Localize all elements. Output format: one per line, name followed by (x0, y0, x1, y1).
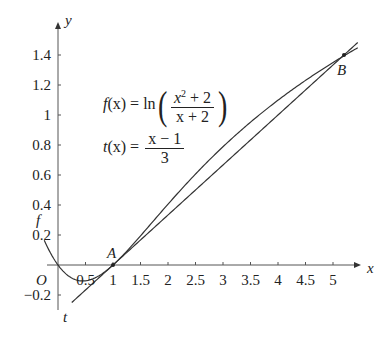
y-tick-label: 0.2 (32, 227, 51, 243)
f-arg: (x) (107, 95, 126, 112)
point-B (342, 53, 346, 57)
right-paren: ) (218, 86, 227, 126)
y-axis-label: y (63, 12, 72, 28)
x-tick-label: 0.5 (76, 272, 95, 288)
point-A-label: A (106, 245, 117, 261)
x-tick-label: 4 (274, 272, 282, 288)
left-paren: ( (158, 86, 167, 126)
y-axis-arrow-icon (55, 22, 61, 29)
x-axis-label: x (366, 260, 374, 276)
y-tick-label: 0.6 (32, 167, 51, 183)
y-tick-label: 0.4 (32, 197, 51, 213)
f-fraction: x2 + 2x + 2 (171, 85, 214, 126)
x-tick-label: 2 (164, 272, 172, 288)
f-num-rest: + 2 (186, 89, 211, 106)
f-num-base: x (174, 89, 181, 106)
x-tick-label: 2.5 (186, 272, 205, 288)
origin-label: O (36, 272, 47, 288)
t-eq: = (126, 138, 143, 155)
point-B-label: B (337, 62, 346, 78)
t-curve-label: t (63, 309, 68, 325)
f-eq: = ln (126, 95, 155, 112)
t-arg: (x) (107, 138, 126, 155)
x-tick-label: 4.5 (296, 272, 315, 288)
curves (44, 43, 358, 303)
y-tick-label: 1 (44, 107, 52, 123)
x-tick-label: 1.5 (131, 272, 150, 288)
x-tick-label: 3.5 (241, 272, 260, 288)
y-tick-label: 1.4 (32, 47, 51, 63)
function-graph: 0.511.522.533.544.55−0.20.20.40.60.811.2… (0, 0, 379, 342)
y-tick-label: −0.2 (24, 287, 51, 303)
x-tick-label: 5 (329, 272, 337, 288)
x-tick-label: 3 (219, 272, 227, 288)
curve-f (44, 48, 358, 281)
f-curve-label: f (36, 212, 42, 228)
t-formula: t(x) = x − 13 (103, 130, 186, 167)
t-denominator: 3 (145, 149, 184, 167)
curve-t (72, 43, 358, 303)
y-tick-label: 0.8 (32, 137, 51, 153)
t-fraction: x − 13 (145, 130, 184, 167)
f-denominator: x + 2 (171, 108, 214, 126)
f-formula: f(x) = ln(x2 + 2x + 2) (103, 85, 229, 126)
point-A (111, 263, 115, 267)
labels: 0.511.522.533.544.55−0.20.20.40.60.811.2… (24, 12, 374, 325)
y-tick-label: 1.2 (32, 77, 51, 93)
t-numerator: x − 1 (145, 130, 184, 149)
x-tick-label: 1 (109, 272, 117, 288)
x-axis-arrow-icon (354, 262, 361, 268)
f-numerator: x2 + 2 (171, 85, 214, 108)
